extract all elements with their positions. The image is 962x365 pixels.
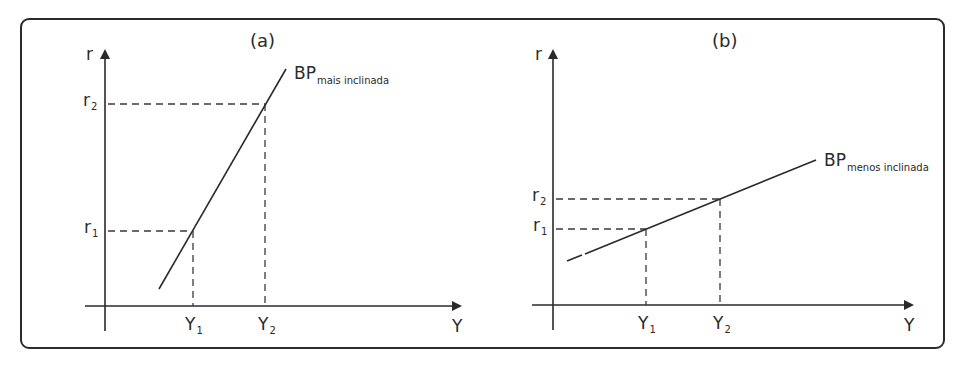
tick-sub: 1 (92, 228, 98, 239)
panel-a-y1-label: Y1 (185, 316, 203, 336)
panel-b-bp-label: BPmenos inclinada (824, 152, 929, 173)
panel-b (532, 51, 912, 330)
bp-main: BP (824, 150, 846, 170)
tick-sub: 2 (724, 324, 730, 335)
panel-a-r-axis-label: r (86, 46, 93, 63)
tick-sub: 2 (540, 196, 546, 207)
panel-b-y1-label: Y1 (638, 315, 656, 335)
tick-main: Y (185, 314, 195, 334)
panel-b-y-axis-label: Y (904, 317, 914, 334)
tick-main: Y (258, 314, 268, 334)
tick-main: r (533, 215, 540, 235)
tick-sub: 1 (541, 226, 547, 237)
tick-main: r (532, 185, 539, 205)
panel-a-r1-label: r1 (84, 219, 98, 239)
bp-sub: mais inclinada (317, 75, 389, 86)
panel-b-title: (b) (712, 32, 737, 50)
tick-main: Y (713, 313, 723, 333)
panel-a-y-axis-label: Y (452, 318, 462, 335)
panel-b-r1-label: r1 (533, 217, 547, 237)
bp-curves-diagram (0, 0, 962, 365)
panel-a-y2-label: Y2 (258, 316, 276, 336)
tick-main: Y (638, 313, 648, 333)
panel-b-bp-curve (585, 160, 816, 254)
tick-main: r (84, 217, 91, 237)
tick-sub: 2 (91, 101, 97, 112)
bp-sub: menos inclinada (847, 162, 929, 173)
tick-sub: 1 (196, 325, 202, 336)
bp-main: BP (294, 63, 316, 83)
panel-b-r-axis-label: r (535, 46, 542, 63)
tick-sub: 1 (649, 324, 655, 335)
panel-a-bp-label: BPmais inclinada (294, 65, 389, 86)
tick-sub: 2 (269, 325, 275, 336)
panel-a-r2-label: r2 (83, 92, 97, 112)
panel-a-title: (a) (250, 32, 275, 50)
panel-b-bp-curve-start (567, 255, 582, 261)
tick-main: r (83, 90, 90, 110)
panel-b-y2-label: Y2 (713, 315, 731, 335)
panel-a (85, 51, 460, 331)
panel-a-bp-curve (159, 69, 286, 289)
panel-b-r2-label: r2 (532, 187, 546, 207)
